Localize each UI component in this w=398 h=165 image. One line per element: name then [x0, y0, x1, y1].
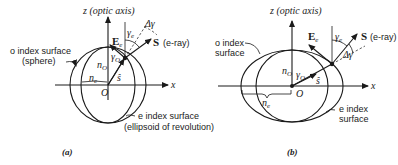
n-e-label-a: ne — [89, 72, 97, 85]
e-surface-label-a-line2: (ellipsoid of revolution) — [124, 122, 214, 132]
s-hat-label-a: ŝ — [117, 72, 121, 83]
S-vector-a — [125, 39, 151, 58]
E-e-label-b: Ee — [308, 30, 318, 44]
gamma-e-arc-a — [125, 40, 139, 47]
panel-a: z (optic axis) x O o index surface (sphe… — [10, 5, 214, 157]
delta-gamma-label-b: Δγ — [342, 49, 354, 60]
S-label-b: S — [361, 30, 367, 42]
gamma-e-label-b: γe — [335, 31, 342, 44]
E-e-label-a: Ee — [112, 35, 122, 49]
gamma-e-label-a: γe — [127, 27, 134, 40]
gamma-o-label-b: γO — [296, 69, 305, 82]
z-axis-label-b: z (optic axis) — [269, 5, 322, 17]
x-axis-label-b: x — [370, 80, 376, 91]
n-o-label-a: nO — [97, 59, 107, 72]
caption-b: (b) — [287, 147, 298, 157]
E-e-vector-b — [309, 45, 332, 64]
e-surface-label-a-line1: e index surface — [138, 111, 199, 121]
origin-label-b: O — [296, 88, 303, 99]
S-desc-label-b: (e-ray) — [370, 32, 397, 42]
origin-label-a: O — [101, 87, 108, 98]
caption-a: (a) — [62, 147, 73, 157]
S-label-a: S — [153, 36, 159, 48]
o-surface-pointer-a — [66, 62, 76, 67]
o-surface-label-b-line1: o index — [215, 38, 245, 48]
S-desc-label-a: (e-ray) — [163, 38, 190, 48]
o-surface-label-a-line2: (sphere) — [22, 56, 56, 66]
panel-b: z (optic axis) x O o index surface e ind… — [215, 5, 397, 157]
o-surface-pointer-b — [245, 43, 260, 54]
n-o-label-b: nO — [282, 65, 292, 78]
z-axis-label-a: z (optic axis) — [82, 5, 135, 17]
s-hat-label-b: ŝ — [316, 75, 320, 86]
e-surface-label-b-line2: surface — [339, 114, 369, 124]
delta-gamma-label-a: Δγ — [144, 18, 156, 29]
diagram-canvas: z (optic axis) x O o index surface (sphe… — [0, 0, 398, 165]
e-surface-label-b-line1: e index — [339, 104, 369, 114]
o-surface-label-a-line1: o index surface — [10, 46, 71, 56]
o-surface-label-b-line2: surface — [215, 48, 245, 58]
x-axis-label-a: x — [170, 79, 176, 90]
